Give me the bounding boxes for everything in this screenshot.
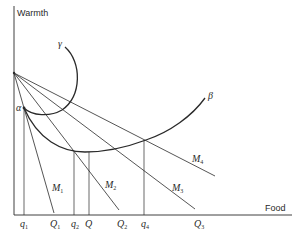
gamma-label: γ <box>58 39 62 49</box>
line-m1 <box>14 73 54 213</box>
tick-label-Q2: Q2 <box>117 219 127 230</box>
curve-beta <box>24 98 205 152</box>
alpha-label: α <box>16 103 21 113</box>
tick-label-Q: Q <box>85 219 92 230</box>
tick-label-q1: q1 <box>20 219 28 230</box>
tick-label-q2: q2 <box>71 219 79 230</box>
line-label-m1: M1 <box>52 183 63 194</box>
line-label-m2: M2 <box>105 180 116 191</box>
line-m4 <box>14 73 215 176</box>
line-label-m4: M4 <box>192 154 203 165</box>
line-m2 <box>14 73 119 210</box>
tick-label-Q3: Q3 <box>194 219 204 230</box>
tick-label-q4: q4 <box>141 219 149 230</box>
y-axis-label: Warmth <box>17 9 48 18</box>
tick-label-Q1: Q1 <box>50 219 60 230</box>
alpha-point <box>23 107 26 110</box>
beta-label: β <box>208 91 213 101</box>
diagram-canvas <box>0 0 297 232</box>
x-axis-label: Food <box>265 204 286 213</box>
origin-point <box>13 72 15 74</box>
curve-gamma <box>24 47 77 115</box>
line-label-m3: M3 <box>172 183 183 194</box>
